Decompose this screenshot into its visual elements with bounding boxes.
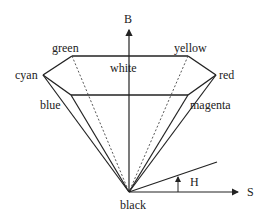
- label-cyan: cyan: [15, 68, 38, 82]
- label-yellow: yellow: [174, 41, 207, 55]
- hue-line: [129, 162, 217, 192]
- label-s: S: [247, 185, 254, 199]
- hsb-hexcone-diagram: B green yellow cyan white red blue magen…: [0, 0, 266, 219]
- label-white: white: [110, 61, 137, 75]
- label-green: green: [52, 41, 79, 55]
- label-h: H: [190, 175, 199, 189]
- label-magenta: magenta: [190, 98, 231, 112]
- label-black: black: [120, 198, 146, 212]
- label-red: red: [219, 68, 234, 82]
- label-b: B: [124, 12, 132, 26]
- label-blue: blue: [40, 98, 61, 112]
